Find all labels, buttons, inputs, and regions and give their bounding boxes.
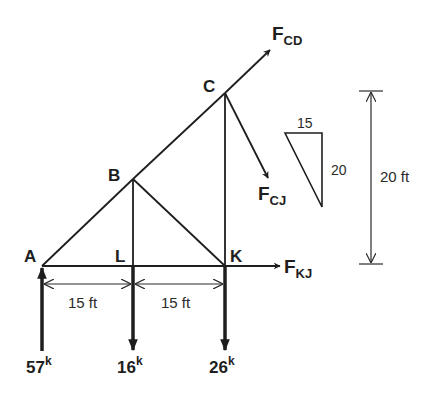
load-label-a-value: 57	[26, 358, 45, 377]
force-label-cd-sub: CD	[284, 33, 303, 48]
dimension-label-al: 15 ft	[68, 294, 98, 311]
slope-label-horizontal: 15	[297, 115, 313, 131]
load-label-a-unit: k	[45, 354, 52, 368]
load-label-l: 16k	[117, 354, 143, 377]
load-label-l-unit: k	[136, 354, 143, 368]
force-label-cj-main: F	[258, 183, 270, 204]
dimension-label-height: 20 ft	[380, 168, 410, 185]
node-label-k: K	[230, 247, 243, 266]
dimension-label-lk: 15 ft	[161, 294, 191, 311]
node-label-c: C	[203, 77, 215, 96]
node-label-b: B	[108, 166, 120, 185]
truss-diagram: A B C L K FCD FCJ FKJ 15 ft 15 ft 20 ft …	[0, 0, 440, 398]
force-label-cd: FCD	[272, 23, 302, 48]
force-label-cj-sub: CJ	[270, 193, 287, 208]
force-label-kj: FKJ	[284, 256, 312, 281]
force-label-cj: FCJ	[258, 183, 286, 208]
slope-triangle	[285, 133, 322, 207]
force-label-kj-main: F	[284, 256, 296, 277]
load-label-a: 57k	[26, 354, 52, 377]
force-arrow-cj	[225, 93, 268, 178]
member-bk	[133, 179, 225, 266]
load-label-k: 26k	[209, 354, 235, 377]
load-label-k-unit: k	[228, 354, 235, 368]
member-bc	[133, 93, 225, 179]
force-label-cd-main: F	[272, 23, 284, 44]
slope-label-vertical: 20	[331, 162, 347, 178]
load-label-l-value: 16	[117, 358, 136, 377]
load-label-k-value: 26	[209, 358, 228, 377]
node-label-l: L	[115, 247, 125, 266]
node-label-a: A	[24, 247, 36, 266]
force-arrow-cd	[225, 50, 270, 93]
force-label-kj-sub: KJ	[296, 266, 313, 281]
truss-members	[42, 93, 225, 266]
